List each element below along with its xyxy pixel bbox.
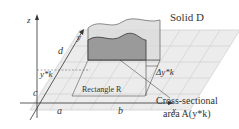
tick-a: a <box>57 106 62 116</box>
diagram: Solid D z y x d c a b y*k Δy*k Rectangle… <box>0 0 239 129</box>
tick-c: c <box>33 88 37 98</box>
tick-b: b <box>118 106 123 116</box>
y-axis-label: y <box>77 33 81 42</box>
solid-d-title: Solid D <box>170 12 204 23</box>
tick-d: d <box>58 46 63 56</box>
z-axis-label: z <box>27 16 31 25</box>
rectangle-r-label: Rectangle R <box>82 86 121 94</box>
cross-section-label-line2: area A(y*k) <box>163 109 210 119</box>
delta-yk-label: Δy*k <box>156 68 174 77</box>
cross-section-label-line1: Cross-sectional <box>156 96 218 106</box>
yk-star-label: y*k <box>40 70 53 79</box>
